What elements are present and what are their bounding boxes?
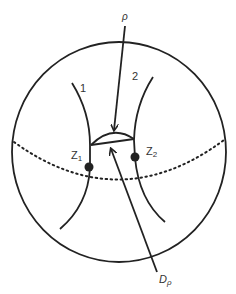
- z2-label: Z2: [146, 146, 157, 159]
- lens-region: [91, 133, 134, 145]
- dp-label: Dρ: [159, 274, 172, 287]
- dotted-equator: [14, 140, 224, 180]
- sphere-diagram: [0, 0, 236, 294]
- rho-label: ρ: [122, 12, 128, 22]
- z1-label: Z1: [71, 150, 82, 163]
- curve-2-label: 2: [132, 71, 138, 82]
- curve-1-label: 1: [80, 83, 86, 94]
- point-z2: [131, 153, 140, 162]
- point-z1: [85, 163, 94, 172]
- dp-arrow: [111, 149, 157, 272]
